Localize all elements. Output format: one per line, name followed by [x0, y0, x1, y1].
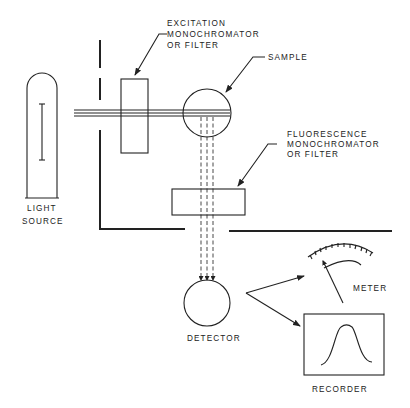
- filament-icon: [39, 104, 45, 160]
- recorder-frame: [304, 314, 384, 375]
- light-source-label-2: SOURCE: [22, 217, 64, 226]
- detector-label: DETECTOR: [187, 334, 241, 343]
- meter-needle: [323, 261, 343, 303]
- meter-inner-arc: [324, 261, 361, 268]
- excitation-monochromator: EXCITATION MONOCHROMATOR OR FILTER: [121, 19, 260, 153]
- excitation-label-1: EXCITATION: [167, 19, 226, 28]
- fluorescence-pointer-arrow: [238, 144, 277, 186]
- meter-label: METER: [353, 284, 387, 293]
- detector-to-meter-arrow: [246, 276, 304, 293]
- fluorescence-label-3: OR FILTER: [287, 150, 339, 159]
- fluorescence-monochromator: FLUORESCENCE MONOCHROMATOR OR FILTER: [172, 130, 380, 215]
- fluorescence-label-2: MONOCHROMATOR: [287, 140, 380, 149]
- meter-tick-marks: [310, 243, 372, 259]
- recorder: RECORDER: [304, 314, 384, 394]
- detector-body: [184, 280, 230, 326]
- light-source-label-1: LIGHT: [27, 204, 57, 213]
- meter: METER: [308, 243, 387, 303]
- excitation-beam: [74, 110, 230, 116]
- excitation-label-3: OR FILTER: [167, 41, 219, 50]
- recorder-peak-trace: [321, 325, 372, 365]
- sample-pointer-arrow: [226, 57, 265, 92]
- excitation-label-2: MONOCHROMATOR: [167, 30, 260, 39]
- excitation-pointer-arrow: [135, 34, 167, 75]
- emission-beam: [201, 117, 213, 280]
- fluorescence-label-1: FLUORESCENCE: [287, 130, 368, 139]
- meter-scale-arc: [308, 244, 373, 257]
- sample: SAMPLE: [183, 53, 308, 137]
- recorder-label: RECORDER: [312, 385, 368, 394]
- fluorometer-diagram: LIGHT SOURCE EXCITATION MONOCHROMATOR OR…: [0, 0, 410, 408]
- sample-label: SAMPLE: [268, 53, 308, 62]
- detector: DETECTOR: [184, 276, 304, 343]
- detector-to-recorder-arrow: [246, 293, 300, 326]
- light-source: LIGHT SOURCE: [22, 73, 64, 226]
